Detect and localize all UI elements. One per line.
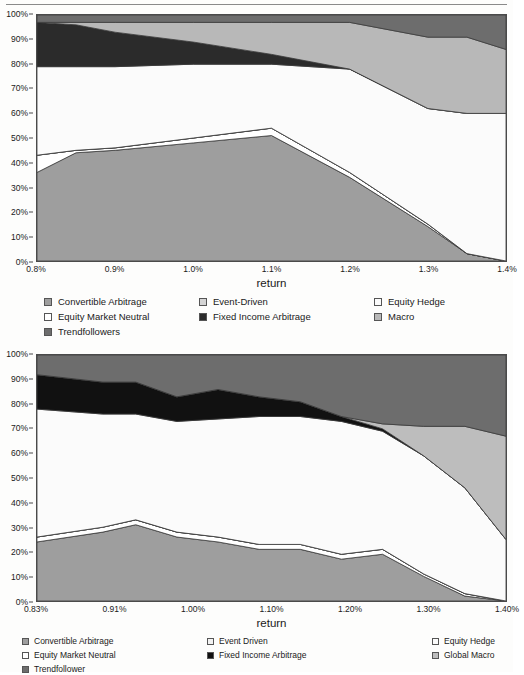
chart-1-stacked-area-svg [37, 15, 506, 261]
legend-swatch-icon [374, 298, 382, 306]
chart-1-legend-item[interactable]: Trendfollowers [44, 326, 199, 338]
chart-1-x-tick-label: 1.4% [497, 264, 516, 274]
chart-2-y-tick-mark [29, 403, 33, 404]
chart-2-legend-label: Convertible Arbitrage [34, 636, 113, 647]
chart-1-legend-item[interactable]: Macro [374, 311, 504, 323]
chart-1-y-tick-mark [29, 212, 33, 213]
chart-1-x-tick-label: 1.0% [183, 264, 202, 274]
chart-2-legend-label: Equity Hedge [444, 636, 495, 647]
chart-1-y-tick-label: 20% [11, 208, 28, 217]
chart-1-y-tick-mark [29, 38, 33, 39]
chart-2-y-tick-mark [29, 527, 33, 528]
chart-2-plot-area[interactable] [36, 354, 507, 602]
chart-1-x-axis-title: return [36, 277, 507, 289]
legend-swatch-icon [432, 652, 439, 659]
chart-2-y-tick-mark [29, 378, 33, 379]
chart-2-legend-item[interactable]: Trendfollower [22, 664, 207, 675]
chart-1-y-tick-mark [29, 262, 33, 263]
legend-swatch-icon [44, 313, 52, 321]
chart-1-x-tick-label: 0.8% [26, 264, 45, 274]
chart-1-x-tick-label: 0.9% [105, 264, 124, 274]
top-horizontal-rule [6, 4, 507, 5]
chart-2-y-tick-label: 40% [11, 498, 28, 507]
chart-1-legend-item[interactable]: Fixed Income Arbitrage [199, 311, 374, 323]
chart-1-y-tick-label: 100% [6, 10, 28, 19]
chart-1-legend-item[interactable]: Equity Hedge [374, 296, 504, 308]
chart-1-y-tick-label: 60% [11, 109, 28, 118]
chart-2-legend-item[interactable]: Fixed Income Arbitrage [207, 650, 432, 661]
legend-swatch-icon [432, 638, 439, 645]
chart-2-x-axis: 0.83%0.91%1.00%1.10%1.20%1.30%1.40% [36, 602, 507, 616]
chart-1-plot-wrapper: 0%10%20%30%40%50%60%70%80%90%100% [36, 14, 507, 262]
chart-2-legend-label: Global Macro [444, 650, 495, 661]
legend-swatch-icon [207, 638, 214, 645]
chart-2-y-tick-mark [29, 552, 33, 553]
chart-1-y-tick-label: 70% [11, 84, 28, 93]
chart-1-legend-item[interactable]: Event-Driven [199, 296, 374, 308]
chart-1-legend-label: Equity Market Neutral [58, 311, 149, 323]
chart-1-x-tick-label: 1.3% [419, 264, 438, 274]
chart-2-y-tick-label: 50% [11, 474, 28, 483]
chart-1-y-tick-label: 80% [11, 59, 28, 68]
chart-2-x-tick-label: 0.83% [24, 604, 48, 614]
chart-1-legend-item[interactable]: Convertible Arbitrage [44, 296, 199, 308]
chart-2-legend-item[interactable]: Equity Hedge [432, 636, 524, 647]
chart-1-y-tick-mark [29, 138, 33, 139]
chart-1-y-tick-mark [29, 162, 33, 163]
chart-1-y-tick-label: 40% [11, 158, 28, 167]
chart-2-y-tick-label: 60% [11, 449, 28, 458]
chart-1-legend-item[interactable]: Equity Market Neutral [44, 311, 199, 323]
chart-2-y-tick-mark [29, 478, 33, 479]
chart-1-x-axis: 0.8%0.9%1.0%1.1%1.2%1.3%1.4% [36, 262, 507, 276]
chart-2-plot-wrapper: 0%10%20%30%40%50%60%70%80%90%100% [36, 354, 507, 602]
chart-2-legend-item[interactable]: Equity Market Neutral [22, 650, 207, 661]
chart-2-x-tick-label: 1.10% [259, 604, 283, 614]
chart-2-y-tick-mark [29, 354, 33, 355]
chart-2-legend-label: Event Driven [219, 636, 268, 647]
chart-1-x-tick-label: 1.1% [262, 264, 281, 274]
legend-swatch-icon [199, 298, 207, 306]
chart-2-y-tick-mark [29, 453, 33, 454]
chart-2-legend-item[interactable]: Convertible Arbitrage [22, 636, 207, 647]
chart-2-y-tick-label: 80% [11, 399, 28, 408]
chart-1-y-tick-mark [29, 88, 33, 89]
chart-2-x-tick-label: 1.30% [416, 604, 440, 614]
chart-1-legend: Convertible ArbitrageEvent-DrivenEquity … [44, 296, 504, 338]
chart-2-y-axis: 0%10%20%30%40%50%60%70%80%90%100% [0, 354, 33, 602]
chart-1-legend-label: Event-Driven [213, 296, 268, 308]
legend-swatch-icon [199, 313, 207, 321]
chart-2-y-tick-mark [29, 602, 33, 603]
chart-2-y-tick-label: 30% [11, 523, 28, 532]
legend-swatch-icon [22, 638, 29, 645]
chart-1-y-tick-mark [29, 63, 33, 64]
chart-2-legend-label: Trendfollower [34, 664, 85, 675]
chart-1-legend-label: Fixed Income Arbitrage [213, 311, 311, 323]
chart-2-legend-label: Fixed Income Arbitrage [219, 650, 306, 661]
chart-2-y-tick-label: 10% [11, 573, 28, 582]
chart-2-legend-label: Equity Market Neutral [34, 650, 116, 661]
legend-swatch-icon [207, 652, 214, 659]
chart-2-x-axis-title: return [36, 617, 507, 629]
chart-1-y-tick-mark [29, 187, 33, 188]
legend-swatch-icon [44, 328, 52, 336]
chart-1-legend-label: Equity Hedge [388, 296, 445, 308]
chart-2-y-tick-mark [29, 428, 33, 429]
chart-1-plot-area[interactable] [36, 14, 507, 262]
chart-2-legend-item[interactable]: Event Driven [207, 636, 432, 647]
figure-1: 0%10%20%30%40%50%60%70%80%90%100% 0.8%0.… [0, 14, 513, 338]
chart-2-stacked-area-svg [37, 355, 506, 601]
chart-2-legend: Convertible ArbitrageEvent DrivenEquity … [22, 636, 482, 675]
chart-2-legend-item[interactable]: Global Macro [432, 650, 524, 661]
chart-1-y-tick-label: 10% [11, 233, 28, 242]
chart-2-x-tick-label: 1.00% [181, 604, 205, 614]
chart-2-x-tick-label: 1.40% [495, 604, 519, 614]
chart-1-legend-label: Convertible Arbitrage [58, 296, 147, 308]
chart-2-y-tick-label: 20% [11, 548, 28, 557]
chart-1-legend-label: Macro [388, 311, 414, 323]
chart-1-y-tick-mark [29, 14, 33, 15]
chart-1-y-axis: 0%10%20%30%40%50%60%70%80%90%100% [0, 14, 33, 262]
chart-1-y-tick-label: 50% [11, 134, 28, 143]
chart-1-legend-label: Trendfollowers [58, 326, 120, 338]
chart-2-y-tick-label: 70% [11, 424, 28, 433]
